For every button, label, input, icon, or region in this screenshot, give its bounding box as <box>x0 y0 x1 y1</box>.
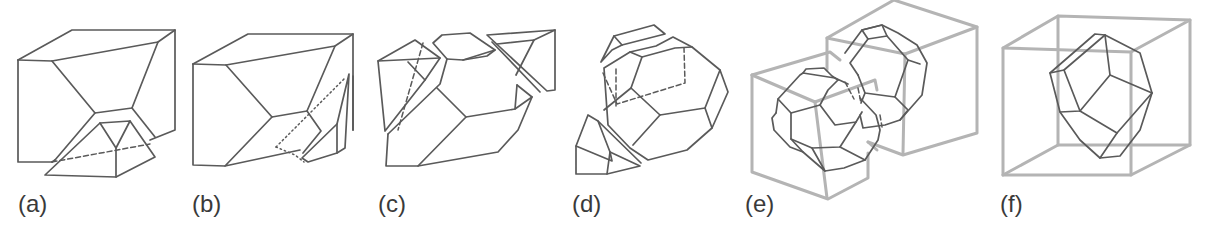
cube-edge <box>1003 145 1058 175</box>
panel-label-b: (b) <box>192 192 221 216</box>
polyhedron-edge <box>1060 70 1080 112</box>
polyhedron-edge <box>862 25 887 39</box>
polyhedron-edge <box>1050 34 1152 158</box>
polyhedron-edge <box>614 36 622 45</box>
polyhedron-edge <box>418 88 466 166</box>
panel-f <box>1003 16 1190 175</box>
polyhedron-edge <box>132 108 155 137</box>
polyhedron-edge <box>1117 93 1152 133</box>
polyhedron-edge <box>487 30 555 91</box>
polyhedron-edge <box>633 115 660 145</box>
polyhedron-edge <box>55 113 95 160</box>
cube-edge <box>815 102 827 198</box>
polyhedron-edge <box>845 25 927 128</box>
cut-plane-dotted <box>276 78 345 147</box>
hidden-edge-dashed <box>858 88 861 103</box>
panel-c <box>378 30 555 166</box>
panel-label-e: (e) <box>745 192 774 216</box>
polyhedron-edge <box>607 152 610 174</box>
panel-label-a: (a) <box>18 192 47 216</box>
polyhedron-edge <box>18 60 52 162</box>
panel-label-c: (c) <box>378 192 406 216</box>
polyhedron-edge <box>840 147 865 160</box>
polyhedron-edge <box>193 64 225 166</box>
polyhedron-edge <box>497 40 534 75</box>
polyhedron-edge <box>100 121 130 148</box>
polyhedron-edge <box>895 97 908 120</box>
polyhedron-edge <box>576 115 612 161</box>
polyhedron-edge <box>52 42 158 113</box>
polyhedron-edge <box>858 60 908 97</box>
panel-d <box>576 25 728 174</box>
panel-label-d: (d) <box>572 192 601 216</box>
polyhedron-edge <box>778 99 803 152</box>
polyhedron-edge <box>18 30 175 140</box>
panel-b <box>193 34 353 166</box>
panel-e <box>752 0 977 199</box>
polyhedron-edge <box>1080 35 1110 111</box>
polyhedron-edge <box>630 47 692 57</box>
polyhedron-edge <box>226 46 335 117</box>
polyhedron-edge <box>705 108 712 128</box>
panel-label-f: (f) <box>1000 192 1023 216</box>
polyhedron-edge <box>604 88 631 110</box>
polyhedron-edge <box>515 85 517 109</box>
polyhedron-edge <box>388 33 495 134</box>
polyhedron-edge <box>45 121 155 177</box>
polyhedron-edge <box>631 57 720 115</box>
polyhedron-edge <box>1080 111 1117 158</box>
polyhedron-edge <box>601 25 665 62</box>
panel-a <box>18 30 175 177</box>
polyhedron-edge <box>492 42 540 92</box>
polyhedron-edge <box>302 74 349 162</box>
polyhedron-edge <box>378 58 440 61</box>
polyhedron-edge <box>225 117 300 166</box>
figure: (a) (b) (c) (d) (e) (f) <box>0 0 1206 230</box>
polyhedron-edge <box>193 34 353 130</box>
polyhedron-edge <box>378 40 440 131</box>
figure-canvas <box>0 0 1206 230</box>
polyhedron-edge <box>791 122 856 148</box>
polyhedron-edge <box>408 62 425 80</box>
polyhedron-edge <box>466 97 532 117</box>
